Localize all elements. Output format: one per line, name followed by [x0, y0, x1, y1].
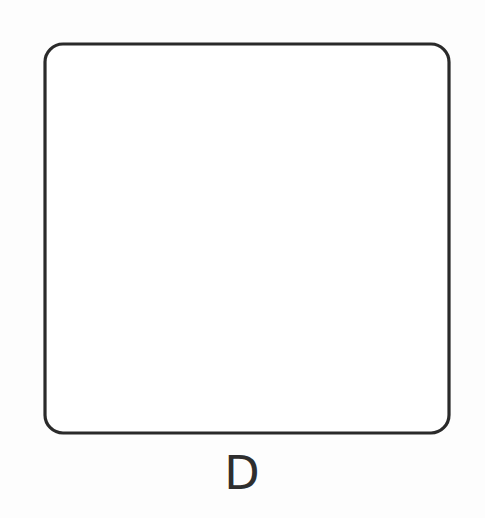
knit-swatch-illustration	[0, 0, 485, 518]
swatch-body	[45, 44, 449, 433]
figure-root: D	[0, 0, 485, 518]
figure-caption-label: D	[0, 447, 485, 499]
